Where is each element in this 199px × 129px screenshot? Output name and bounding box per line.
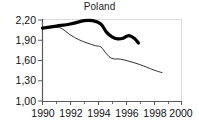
y-tick-label: 1,00 <box>16 95 37 107</box>
x-tick-label: 1992 <box>59 107 83 119</box>
y-tick-label: 1,30 <box>16 74 37 86</box>
y-tick-label: 1,90 <box>16 34 37 46</box>
data-series-group <box>43 20 163 72</box>
x-tick-label: 1994 <box>87 107 111 119</box>
y-tick-labels: 2,20 1,90 1,60 1,30 1,00 <box>16 14 37 107</box>
x-tick-label: 1990 <box>31 107 55 119</box>
y-tick-label: 2,20 <box>16 14 37 26</box>
x-axis <box>42 102 182 106</box>
plot-frame <box>42 20 182 102</box>
line-chart-plot: 2,20 1,90 1,60 1,30 1,00 1990 1992 1994 <box>0 0 199 129</box>
series-line-thin <box>43 27 163 72</box>
series-line-thick <box>43 20 139 43</box>
x-tick-label: 1996 <box>115 107 139 119</box>
x-tick-labels: 1990 1992 1994 1996 1998 2000 <box>31 107 193 119</box>
y-tick-label: 1,60 <box>16 54 37 66</box>
chart-container: Poland 2,20 1,90 1,60 1,30 1,00 <box>0 0 199 129</box>
y-axis <box>38 19 43 102</box>
x-tick-label: 1998 <box>143 107 167 119</box>
x-tick-label: 2000 <box>169 107 193 119</box>
